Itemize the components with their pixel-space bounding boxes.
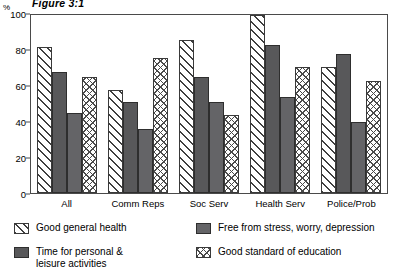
y-tick-label: 40 <box>15 117 26 128</box>
y-tick-label: 60 <box>15 81 26 92</box>
chart-title: Figure 3:1 <box>32 0 84 9</box>
y-tick-mark <box>26 158 30 159</box>
bar <box>194 77 209 193</box>
legend-item-label: Good standard of education <box>218 246 341 258</box>
bar <box>295 67 310 193</box>
chart-legend: Good general health Free from stress, wo… <box>14 222 389 269</box>
legend-swatch-icon <box>196 223 211 234</box>
legend-item-label: Free from stress, worry, depression <box>218 222 375 234</box>
bar <box>52 72 67 193</box>
x-tick-label: Soc Serv <box>173 198 244 209</box>
bar-group <box>245 15 316 193</box>
bar <box>138 129 153 193</box>
x-tick-label: All <box>31 198 102 209</box>
bar <box>37 47 52 193</box>
bar <box>351 122 366 193</box>
x-tick-label: Health Serv <box>245 198 316 209</box>
bar <box>82 77 97 193</box>
bar <box>250 15 265 193</box>
y-tick-label: 100 <box>10 9 26 20</box>
bar <box>108 90 123 193</box>
y-tick-mark <box>26 86 30 87</box>
legend-swatch-icon <box>14 223 29 234</box>
y-axis-unit-label: % <box>3 3 10 12</box>
legend-item-label: Time for personal & leisure activities <box>36 246 123 269</box>
y-tick-mark <box>26 122 30 123</box>
y-tick-label: 20 <box>15 153 26 164</box>
bar <box>321 67 336 193</box>
bar <box>224 115 239 193</box>
bar <box>366 81 381 193</box>
bar <box>153 58 168 193</box>
bar-group <box>31 15 102 193</box>
y-tick-mark <box>26 50 30 51</box>
legend-item-time-for-personal-leisure[interactable]: Time for personal & leisure activities <box>14 246 196 269</box>
y-tick-mark <box>26 14 30 15</box>
y-axis: 020406080100 <box>0 14 26 194</box>
bar-group <box>173 15 244 193</box>
legend-item-label: Good general health <box>36 222 127 234</box>
bar <box>209 102 224 193</box>
bar <box>67 113 82 193</box>
legend-item-free-from-stress[interactable]: Free from stress, worry, depression <box>196 222 389 242</box>
bar <box>280 97 295 193</box>
x-axis: AllComm RepsSoc ServHealth ServPolice/Pr… <box>31 198 387 209</box>
legend-swatch-icon <box>196 247 211 258</box>
bar-group <box>316 15 387 193</box>
bar <box>179 40 194 193</box>
bar-group <box>102 15 173 193</box>
bar <box>265 45 280 193</box>
legend-swatch-icon <box>14 247 29 258</box>
x-tick-label: Comm Reps <box>102 198 173 209</box>
y-tick-label: 80 <box>15 45 26 56</box>
bar-groups-container <box>31 15 387 193</box>
y-tick-mark <box>26 194 30 195</box>
legend-item-good-general-health[interactable]: Good general health <box>14 222 196 242</box>
bar <box>123 102 138 193</box>
x-tick-label: Police/Prob <box>316 198 387 209</box>
bar <box>336 54 351 193</box>
legend-item-good-standard-education[interactable]: Good standard of education <box>196 246 389 269</box>
